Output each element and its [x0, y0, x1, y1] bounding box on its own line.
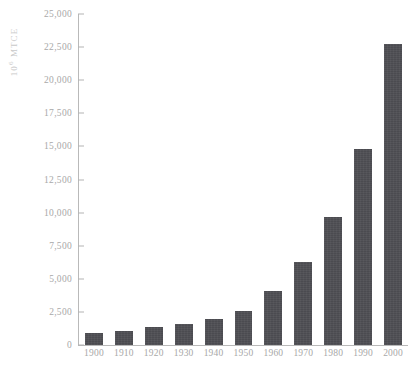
x-tick-label: 1930: [174, 348, 194, 358]
x-tick-label: 1900: [84, 348, 104, 358]
bar[interactable]: [85, 333, 103, 345]
bar[interactable]: [294, 262, 312, 345]
y-tick-mark: [78, 311, 84, 312]
plot-area: [79, 14, 408, 345]
bar-slot: [85, 14, 103, 345]
bar-slot: [175, 14, 193, 345]
y-tick-label: 15,000: [44, 141, 72, 151]
bar[interactable]: [354, 149, 372, 345]
bar-slot: [145, 14, 163, 345]
bar-slot: [384, 14, 402, 345]
bar[interactable]: [384, 44, 402, 345]
y-tick-mark: [78, 278, 84, 279]
bar[interactable]: [115, 331, 133, 345]
bar[interactable]: [145, 327, 163, 345]
x-tick-label: 1940: [204, 348, 224, 358]
x-tick-label: 1950: [234, 348, 254, 358]
y-tick-label: 7,500: [49, 241, 72, 251]
bar-slot: [264, 14, 282, 345]
y-axis-ticks: 02,5005,0007,50010,00012,50015,00017,500…: [26, 0, 78, 383]
bar-slot: [294, 14, 312, 345]
y-tick-label: 5,000: [49, 274, 72, 284]
x-axis-line: [78, 345, 408, 346]
bar-chart: 106 MTCE 02,5005,0007,50010,00012,50015,…: [0, 0, 418, 383]
y-tick-mark: [78, 245, 84, 246]
y-axis-title-base: 10: [9, 65, 19, 76]
y-tick-mark: [78, 80, 84, 81]
y-axis-title-text: 106 MTCE: [7, 28, 19, 77]
bar[interactable]: [324, 217, 342, 345]
x-tick-label: 1920: [144, 348, 164, 358]
y-tick-label: 22,500: [44, 42, 72, 52]
x-tick-label: 1970: [293, 348, 313, 358]
bar-slot: [205, 14, 223, 345]
bar[interactable]: [175, 324, 193, 345]
y-tick-label: 25,000: [44, 9, 72, 19]
bar-slot: [235, 14, 253, 345]
bar-slot: [324, 14, 342, 345]
x-axis-ticks: 1900191019201930194019501960197019801990…: [79, 348, 408, 372]
y-axis-title-exponent: 6: [7, 60, 15, 65]
y-tick-mark: [78, 47, 84, 48]
x-tick-label: 1960: [264, 348, 284, 358]
y-tick-label: 10,000: [44, 208, 72, 218]
y-tick-mark: [78, 212, 84, 213]
y-tick-mark: [78, 14, 84, 15]
y-tick-label: 0: [67, 340, 72, 350]
x-tick-label: 1980: [323, 348, 343, 358]
x-tick-label: 1910: [114, 348, 134, 358]
y-axis-title: 106 MTCE: [0, 0, 26, 120]
y-tick-label: 2,500: [49, 307, 72, 317]
y-tick-mark: [78, 179, 84, 180]
y-tick-mark: [78, 146, 84, 147]
y-tick-label: 12,500: [44, 175, 72, 185]
bar-slot: [115, 14, 133, 345]
bar[interactable]: [264, 291, 282, 345]
bar[interactable]: [235, 311, 253, 345]
x-tick-label: 1990: [353, 348, 373, 358]
x-tick-label: 2000: [383, 348, 403, 358]
bar[interactable]: [205, 319, 223, 345]
y-tick-label: 20,000: [44, 75, 72, 85]
y-tick-mark: [78, 113, 84, 114]
y-tick-label: 17,500: [44, 108, 72, 118]
y-axis-title-unit: MTCE: [9, 28, 19, 57]
y-tick-mark: [78, 345, 84, 346]
bar-slot: [354, 14, 372, 345]
